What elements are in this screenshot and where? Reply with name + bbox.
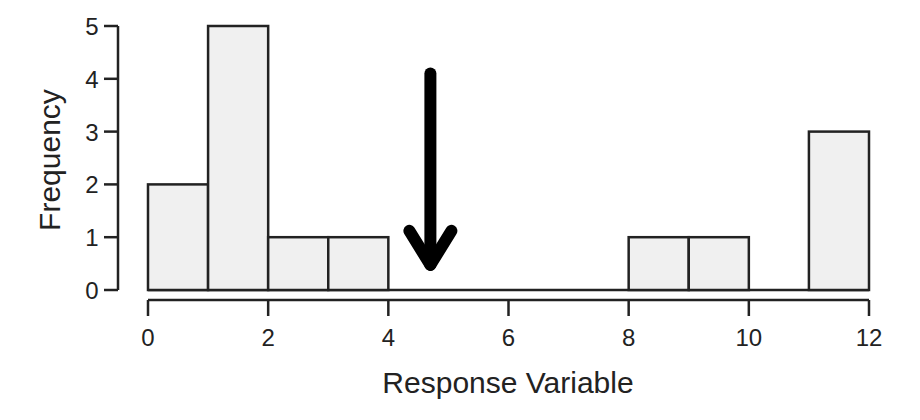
- x-tick-label: 4: [382, 324, 395, 351]
- y-tick-label: 5: [85, 13, 98, 40]
- histogram-bar: [208, 26, 268, 290]
- histogram-bar: [268, 237, 328, 290]
- x-axis-label: Response Variable: [382, 366, 633, 399]
- histogram-bar: [689, 237, 749, 290]
- y-axis-label: Frequency: [33, 89, 66, 231]
- y-tick-label: 3: [85, 119, 98, 146]
- y-axis: 012345: [85, 13, 118, 304]
- x-tick-label: 0: [141, 324, 154, 351]
- x-axis: 024681012: [141, 300, 882, 351]
- histogram-bar: [328, 237, 388, 290]
- y-tick-label: 2: [85, 171, 98, 198]
- x-tick-label: 6: [502, 324, 515, 351]
- y-tick-label: 0: [85, 277, 98, 304]
- y-tick-label: 1: [85, 224, 98, 251]
- histogram-chart: 012345 024681012 Frequency Response Vari…: [0, 0, 920, 420]
- x-tick-label: 12: [856, 324, 883, 351]
- y-tick-label: 4: [85, 66, 98, 93]
- annotation-arrow: [409, 74, 451, 265]
- histogram-bar: [148, 184, 208, 290]
- x-tick-label: 8: [622, 324, 635, 351]
- histogram-bars: [148, 26, 869, 290]
- histogram-bar: [809, 132, 869, 290]
- x-tick-label: 10: [735, 324, 762, 351]
- x-tick-label: 2: [261, 324, 274, 351]
- histogram-bar: [629, 237, 689, 290]
